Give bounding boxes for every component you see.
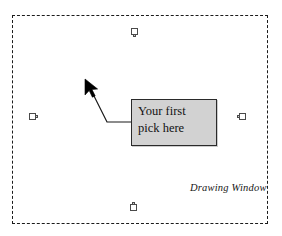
- grip-handle-left[interactable]: [29, 113, 36, 120]
- callout-text: Your first pick here: [138, 103, 212, 137]
- grip-handle-right[interactable]: [239, 113, 246, 120]
- drawing-window-caption: Drawing Window: [190, 182, 267, 193]
- drawing-canvas: Your first pick here Drawing Window: [0, 0, 282, 236]
- grip-handle-top[interactable]: [131, 28, 138, 35]
- callout-box[interactable]: Your first pick here: [131, 99, 217, 146]
- grip-handle-bottom[interactable]: [130, 204, 137, 211]
